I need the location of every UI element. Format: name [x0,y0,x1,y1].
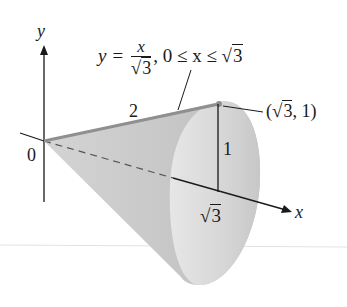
y-axis-arrow-icon [40,45,48,55]
domain-radical: √3 [222,46,243,65]
curve-equation-label: y = x √3 , 0 ≤ x ≤ √3 [98,38,243,77]
base-distance-label: √3 [200,206,221,225]
height-label: 1 [223,140,232,158]
endpoint-dot [216,101,222,107]
fraction-denominator: √3 [131,57,151,77]
endpoint-radical: √3 [272,101,292,120]
origin-label: 0 [27,146,36,164]
equation-lhs: y = [98,45,124,66]
endpoint-label: (√3, 1) [266,101,316,120]
y-axis-label: y [37,22,45,40]
equation-fraction: x √3 [131,38,151,77]
slant-length-label: 2 [129,102,138,120]
equation-domain: , 0 ≤ x ≤ [153,45,221,66]
x-axis-arrow-icon [281,205,292,213]
x-axis-label: x [295,203,303,221]
fraction-numerator: x [131,38,151,57]
z-axis-stub [20,133,44,141]
cone-diagram: y 0 x y = x √3 , 0 ≤ x ≤ √3 2 1 √3 (√3, … [0,0,347,307]
